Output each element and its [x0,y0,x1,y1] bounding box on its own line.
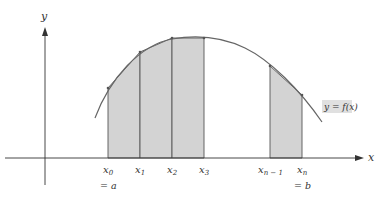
y-axis-arrow-icon [42,27,48,36]
trapezoid-1 [108,52,140,158]
trapezoid-2 [140,38,172,158]
label-x2: x2 [167,164,178,177]
label-x3: x3 [199,164,210,177]
label-equals-b: = b [294,180,311,191]
point-labels: x0 x1 x2 x3 xn − 1 xn = a = b [100,164,311,191]
label-equals-a: = a [100,180,117,191]
curve-label: y = f(x) [323,102,358,112]
trapezoid-rule-diagram: x y y = f(x) x0 x1 x2 x3 xn − 1 xn = a =… [0,0,385,198]
x-axis-label: x [368,151,375,164]
x-axis-arrow-icon [355,155,364,161]
label-xn-1: xn − 1 [258,164,283,177]
y-axis-label: y [40,10,48,23]
label-xn: xn [297,164,308,177]
label-x1: x1 [135,164,145,177]
trapezoid-n [270,66,302,158]
label-x0: x0 [103,164,114,177]
trapezoid-3 [172,38,204,158]
